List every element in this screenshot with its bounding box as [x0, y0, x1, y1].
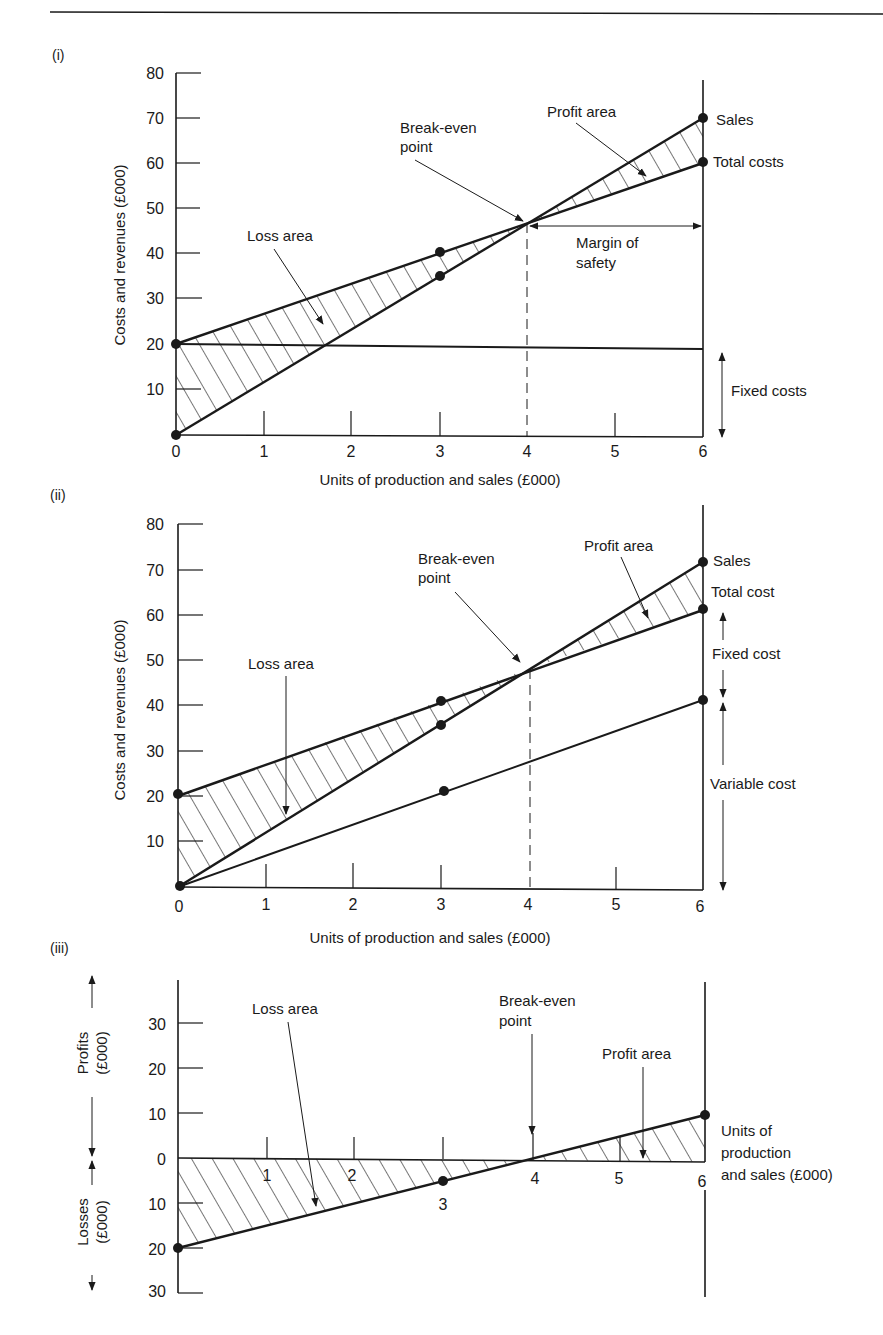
svg-text:2: 2 — [349, 896, 358, 913]
svg-text:30: 30 — [148, 1016, 166, 1033]
svg-text:20: 20 — [148, 1061, 166, 1078]
svg-text:1: 1 — [262, 896, 271, 913]
svg-text:6: 6 — [696, 898, 705, 915]
svg-text:3: 3 — [439, 1196, 448, 1213]
profits-label: Profits — [74, 1032, 91, 1075]
svg-text:point: point — [400, 138, 433, 155]
panel-label: (iii) — [50, 940, 69, 956]
svg-text:30: 30 — [146, 743, 164, 760]
svg-text:and sales (£000): and sales (£000) — [721, 1166, 833, 1183]
svg-text:20: 20 — [148, 1241, 166, 1258]
break-even-arrow — [455, 592, 520, 662]
units-label: Units of — [721, 1122, 773, 1139]
svg-text:5: 5 — [615, 1170, 624, 1187]
break-even-arrow — [415, 160, 523, 221]
svg-text:point: point — [499, 1012, 532, 1029]
svg-text:80: 80 — [146, 65, 164, 82]
panel-label: (i) — [52, 47, 64, 63]
svg-text:20: 20 — [146, 336, 164, 353]
profit-area-label: Profit area — [602, 1045, 672, 1062]
svg-text:safety: safety — [576, 254, 617, 271]
svg-text:30: 30 — [146, 290, 164, 307]
total-cost-label: Total cost — [711, 583, 775, 600]
fixed-cost-label: Fixed cost — [712, 645, 781, 662]
losses-label: Losses — [74, 1198, 91, 1246]
svg-text:10: 10 — [146, 381, 164, 398]
svg-text:20: 20 — [146, 788, 164, 805]
svg-text:50: 50 — [146, 652, 164, 669]
svg-text:2: 2 — [347, 443, 356, 460]
loss-area-label: Loss area — [252, 1000, 319, 1017]
svg-text:5: 5 — [612, 896, 621, 913]
x-ticks — [266, 863, 616, 889]
chart-panel-i: (i) 80 70 60 50 40 30 20 10 — [52, 47, 807, 488]
fixed-costs-label: Fixed costs — [731, 382, 807, 399]
svg-text:4: 4 — [523, 443, 532, 460]
y-axis-label: Costs and revenues (£000) — [111, 620, 128, 801]
svg-text:30: 30 — [148, 1283, 166, 1300]
svg-text:production: production — [721, 1144, 791, 1161]
y-tick-labels: 30 20 10 0 10 20 30 — [148, 1016, 166, 1300]
svg-text:5: 5 — [611, 443, 620, 460]
panel-label: (ii) — [50, 487, 66, 503]
svg-text:0: 0 — [175, 898, 184, 915]
profit-area-arrow — [576, 123, 646, 176]
total-costs-label: Total costs — [713, 153, 784, 170]
svg-text:(£000): (£000) — [93, 1031, 110, 1074]
svg-text:10: 10 — [148, 1196, 166, 1213]
profit-area-label: Profit area — [547, 103, 617, 120]
sales-label: Sales — [713, 552, 751, 569]
svg-text:point: point — [418, 569, 451, 586]
svg-text:0: 0 — [172, 443, 181, 460]
profit-area-label: Profit area — [584, 537, 654, 554]
svg-text:2: 2 — [348, 1167, 357, 1184]
x-ticks — [264, 411, 615, 437]
loss-area-label: Loss area — [248, 655, 315, 672]
svg-text:70: 70 — [146, 562, 164, 579]
chart-panel-iii: (iii) 30 20 10 0 10 20 30 — [50, 940, 833, 1300]
variable-cost-label: Variable cost — [710, 775, 796, 792]
x-tick-labels: 0 1 2 3 4 5 6 — [175, 896, 705, 915]
svg-text:4: 4 — [531, 1170, 540, 1187]
svg-text:40: 40 — [146, 245, 164, 262]
svg-text:10: 10 — [148, 1106, 166, 1123]
svg-text:80: 80 — [146, 516, 164, 533]
break-even-label: Break-even — [499, 992, 576, 1009]
svg-text:6: 6 — [698, 1173, 707, 1190]
svg-text:10: 10 — [146, 833, 164, 850]
chart-panel-ii: (ii) 80 70 60 50 40 30 20 10 — [50, 487, 796, 946]
x-axis-label: Units of production and sales (£000) — [320, 471, 561, 488]
loss-area-label: Loss area — [247, 227, 314, 244]
svg-text:0: 0 — [157, 1151, 166, 1168]
svg-text:60: 60 — [146, 607, 164, 624]
break-even-label: Break-even — [418, 550, 495, 567]
svg-text:3: 3 — [437, 896, 446, 913]
x-axis-label: Units of production and sales (£000) — [310, 929, 551, 946]
break-even-label: Break-even — [400, 119, 477, 136]
svg-text:4: 4 — [524, 896, 533, 913]
svg-text:6: 6 — [699, 443, 708, 460]
svg-text:(£000): (£000) — [93, 1200, 110, 1243]
y-tick-labels: 80 70 60 50 40 30 20 10 — [146, 516, 164, 850]
svg-text:1: 1 — [263, 1167, 272, 1184]
sales-label: Sales — [716, 111, 754, 128]
svg-text:60: 60 — [146, 155, 164, 172]
svg-text:3: 3 — [436, 443, 445, 460]
y-axis-label: Costs and revenues (£000) — [111, 165, 128, 346]
x-tick-labels: 0 1 2 3 4 5 6 — [172, 443, 708, 460]
svg-text:70: 70 — [146, 110, 164, 127]
svg-text:50: 50 — [146, 200, 164, 217]
margin-of-safety-label: Margin of — [576, 234, 639, 251]
svg-text:1: 1 — [260, 443, 269, 460]
figure-canvas: (i) 80 70 60 50 40 30 20 10 — [0, 0, 883, 1335]
y-tick-labels: 80 70 60 50 40 30 20 10 — [146, 65, 164, 398]
svg-text:40: 40 — [146, 697, 164, 714]
top-rule — [50, 12, 883, 14]
